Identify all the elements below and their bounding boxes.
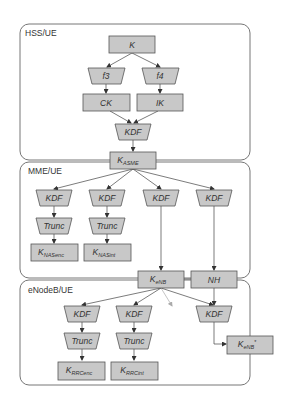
node-kdf-mme-3: KDF (143, 190, 179, 206)
region-label-mme: MME/UE (28, 166, 62, 176)
node-ik: IK (137, 94, 183, 111)
node-kdf-mme-2: KDF (89, 190, 125, 206)
node-trunc-mme-2: Trunc (89, 218, 125, 234)
node-kenb: KeNB (138, 271, 184, 288)
svg-text:NH: NH (208, 275, 221, 285)
node-krrcenc: KRRCenc (58, 362, 105, 380)
node-kdf-mme-1: KDF (36, 190, 72, 206)
svg-text:KDF: KDF (46, 193, 64, 203)
node-kdf-enb-2: KDF (116, 306, 152, 322)
region-label-hss: HSS/UE (25, 28, 57, 38)
svg-text:KDF: KDF (74, 309, 92, 319)
svg-text:KDF: KDF (153, 193, 171, 203)
node-nh: NH (191, 271, 237, 288)
node-trunc-mme-1: Trunc (36, 218, 72, 234)
node-kdf-enb-1: KDF (64, 306, 100, 322)
node-knasint: KNASint (84, 244, 131, 261)
node-knasenc: KNASenc (31, 244, 78, 261)
node-kasme: KASME (110, 152, 156, 169)
svg-text:KDF: KDF (206, 193, 224, 203)
node-krrcint: KRRCint (111, 362, 158, 380)
svg-text:f4: f4 (156, 71, 163, 81)
node-f4: f4 (142, 68, 179, 84)
node-kdf-mme-4: KDF (196, 190, 232, 206)
svg-text:f3: f3 (102, 71, 109, 81)
region-label-enb: eNodeB/UE (28, 285, 73, 295)
svg-text:Trunc: Trunc (43, 221, 65, 231)
key-hierarchy-diagram: HSS/UE MME/UE eNodeB/UE (0, 0, 289, 401)
node-ck: CK (83, 94, 130, 111)
node-k: K (109, 36, 155, 53)
svg-text:Trunc: Trunc (96, 221, 118, 231)
svg-text:KDF: KDF (126, 309, 144, 319)
svg-text:KDF: KDF (99, 193, 117, 203)
svg-text:KDF: KDF (125, 127, 143, 137)
svg-text:KDF: KDF (206, 309, 224, 319)
node-trunc-enb-1: Trunc (64, 333, 100, 349)
svg-text:Trunc: Trunc (123, 336, 145, 346)
node-kdf-hss: KDF (115, 124, 151, 140)
svg-text:Trunc: Trunc (71, 336, 93, 346)
node-f3: f3 (88, 68, 125, 84)
svg-text:K: K (129, 40, 135, 50)
node-kdf-enb-3: KDF (196, 306, 232, 322)
svg-text:CK: CK (100, 98, 112, 108)
node-kenb-star: KeNB* (227, 336, 273, 354)
node-trunc-enb-2: Trunc (116, 333, 152, 349)
svg-text:IK: IK (156, 98, 164, 108)
